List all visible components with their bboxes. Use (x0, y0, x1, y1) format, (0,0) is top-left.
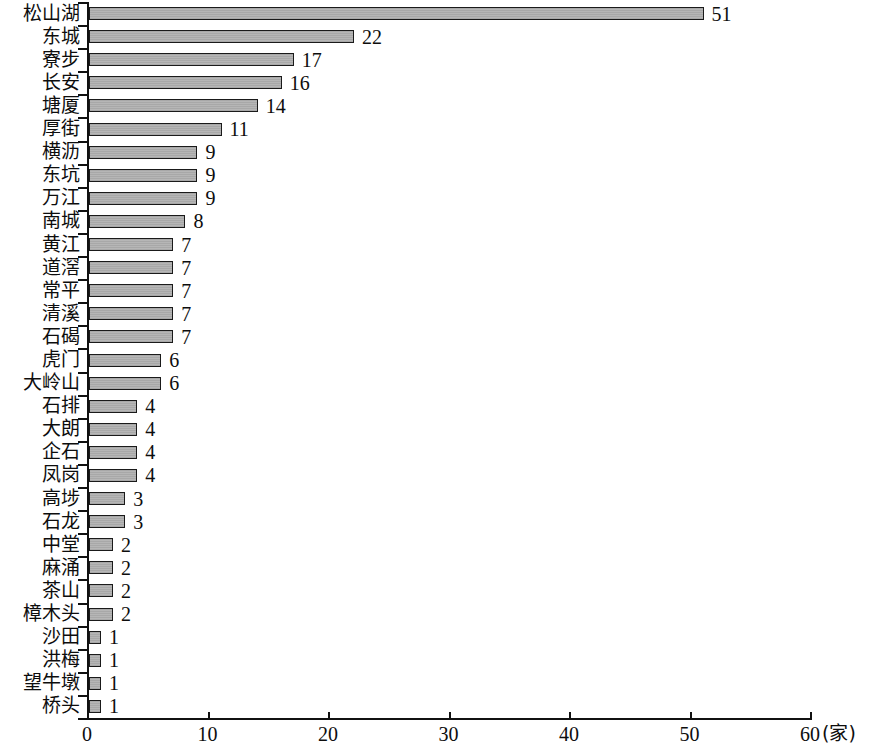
y-axis-tick (78, 649, 87, 651)
category-label: 沙田 (0, 627, 80, 646)
bar-value-label: 1 (109, 696, 119, 716)
bar-value-label: 7 (181, 304, 191, 324)
x-axis-tick (208, 712, 210, 720)
x-axis-tick-label: 0 (82, 724, 92, 744)
category-label: 望牛墩 (0, 673, 80, 692)
category-label: 道滘 (0, 258, 80, 277)
bar (89, 515, 125, 528)
bar-value-label: 1 (109, 627, 119, 647)
bar-value-label: 22 (362, 27, 382, 47)
bar (89, 400, 137, 413)
bar-value-label: 7 (181, 327, 191, 347)
x-axis-tick-label: 10 (198, 724, 218, 744)
y-axis-tick (78, 210, 87, 212)
y-axis-tick (78, 441, 87, 443)
category-label: 企石 (0, 442, 80, 461)
bar (89, 261, 173, 274)
bar-value-label: 4 (145, 396, 155, 416)
category-label: 桥头 (0, 696, 80, 715)
category-label: 石排 (0, 396, 80, 415)
bar (89, 30, 354, 43)
bar (89, 192, 197, 205)
x-axis-tick-label: 50 (680, 724, 700, 744)
bar-value-label: 2 (121, 558, 131, 578)
y-axis-tick (78, 256, 87, 258)
category-label: 茶山 (0, 581, 80, 600)
bar (89, 608, 113, 621)
y-axis-tick (78, 325, 87, 327)
y-axis-tick (78, 94, 87, 96)
y-axis-tick (78, 672, 87, 674)
category-label: 南城 (0, 211, 80, 230)
y-axis-tick (78, 464, 87, 466)
bar-value-label: 1 (109, 673, 119, 693)
y-axis-tick (78, 603, 87, 605)
category-label: 东城 (0, 27, 80, 46)
bar-value-label: 1 (109, 650, 119, 670)
bar (89, 215, 185, 228)
category-label: 黄江 (0, 235, 80, 254)
plot-area: 5122171614119998777776644443322221111 01… (87, 2, 810, 718)
x-axis-tick (449, 712, 451, 720)
bar (89, 654, 101, 667)
y-axis-tick (78, 164, 87, 166)
bar-value-label: 2 (121, 535, 131, 555)
y-axis-tick (78, 510, 87, 512)
y-axis-tick (78, 25, 87, 27)
x-axis-tick (87, 712, 89, 720)
bar-value-label: 6 (169, 350, 179, 370)
y-axis-tick (78, 348, 87, 350)
category-label: 石碣 (0, 327, 80, 346)
y-axis-tick (78, 626, 87, 628)
bar (89, 561, 113, 574)
bar-value-label: 51 (712, 4, 732, 24)
bar (89, 169, 197, 182)
bar (89, 284, 173, 297)
bar (89, 423, 137, 436)
x-axis-tick-label: 60 (800, 724, 820, 744)
category-label: 常平 (0, 281, 80, 300)
bar-value-label: 2 (121, 604, 131, 624)
category-label: 万江 (0, 188, 80, 207)
category-label: 大岭山 (0, 373, 80, 392)
x-axis-tick-label: 40 (559, 724, 579, 744)
bar-value-label: 9 (205, 142, 215, 162)
bar-value-label: 3 (133, 512, 143, 532)
category-label: 石龙 (0, 512, 80, 531)
category-axis-labels: 松山湖东城寮步长安塘厦厚街横沥东坑万江南城黄江道滘常平清溪石碣虎门大岭山石排大朗… (0, 0, 80, 718)
y-axis-tick (78, 533, 87, 535)
bar-value-label: 2 (121, 581, 131, 601)
category-label: 大朗 (0, 419, 80, 438)
category-label: 凤岗 (0, 465, 80, 484)
category-label: 樟木头 (0, 604, 80, 623)
bar-value-label: 4 (145, 419, 155, 439)
y-axis-tick (78, 187, 87, 189)
bar (89, 146, 197, 159)
bar (89, 7, 704, 20)
bar (89, 446, 137, 459)
category-label: 横沥 (0, 142, 80, 161)
category-label: 麻涌 (0, 558, 80, 577)
y-axis-tick (78, 718, 87, 720)
y-axis-tick (78, 71, 87, 73)
category-label: 虎门 (0, 350, 80, 369)
y-axis-tick (78, 117, 87, 119)
y-axis-tick (78, 141, 87, 143)
y-axis-tick (78, 695, 87, 697)
x-axis-tick (810, 712, 812, 720)
bar-value-label: 8 (193, 211, 203, 231)
bar-value-label: 9 (205, 188, 215, 208)
bar (89, 631, 101, 644)
y-axis-tick (78, 579, 87, 581)
y-axis-tick (78, 279, 87, 281)
bar (89, 492, 125, 505)
bar (89, 76, 282, 89)
x-axis-tick (569, 712, 571, 720)
y-axis-tick (78, 487, 87, 489)
bar (89, 123, 222, 136)
bar (89, 584, 113, 597)
bar (89, 700, 101, 713)
bar-value-label: 14 (266, 96, 286, 116)
bar-value-label: 4 (145, 465, 155, 485)
category-label: 清溪 (0, 304, 80, 323)
